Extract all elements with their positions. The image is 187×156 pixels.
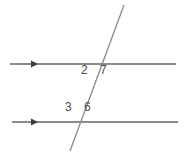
geometry-diagram-svg — [0, 0, 187, 156]
angle-label-7: 7 — [100, 64, 107, 76]
angle-label-2: 2 — [81, 64, 88, 76]
top-line-right-arrow-icon — [31, 60, 38, 67]
geometry-figure: 2 7 3 6 — [0, 0, 187, 156]
transversal-line — [70, 5, 124, 151]
angle-label-6: 6 — [84, 101, 91, 113]
bottom-line-right-arrow-icon — [31, 118, 38, 125]
angle-label-3: 3 — [65, 101, 72, 113]
